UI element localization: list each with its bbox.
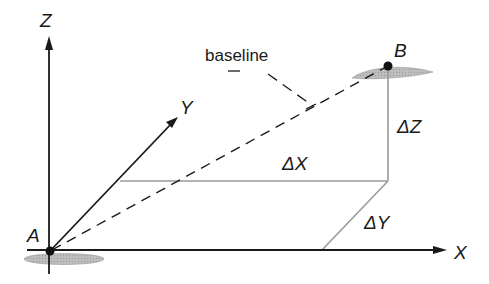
dy-label: ΔY <box>363 212 391 233</box>
point-b-label: B <box>394 40 407 61</box>
x-axis-label: X <box>453 242 468 263</box>
baseline-label: baseline <box>205 46 268 65</box>
y-axis <box>50 117 178 251</box>
x-arrow-icon <box>433 246 447 254</box>
ellipse-at-a <box>24 254 104 265</box>
z-axis <box>45 36 53 274</box>
baseline-diagram: Z Y X A B baseline ΔZ ΔX ΔY <box>0 0 489 284</box>
ellipse-at-b <box>352 67 433 78</box>
point-a-label: A <box>26 225 40 246</box>
x-axis <box>27 246 447 254</box>
point-a <box>46 247 55 256</box>
z-arrow-icon <box>45 36 53 50</box>
baseline-line <box>52 67 386 250</box>
dx-label: ΔX <box>281 153 309 174</box>
dz-label: ΔZ <box>396 116 423 137</box>
point-b <box>384 62 393 71</box>
baseline-leader <box>228 71 316 109</box>
y-axis-label: Y <box>180 97 194 118</box>
z-axis-label: Z <box>39 10 53 31</box>
